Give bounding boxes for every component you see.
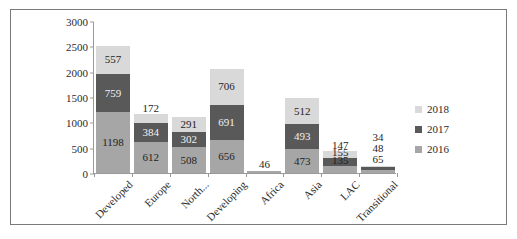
- bar-segment-2016[interactable]: 508: [172, 147, 206, 173]
- chart-figure-frame: 050010001500200025003000 557759119817238…: [10, 9, 507, 225]
- bar-stack[interactable]: 147155135: [323, 151, 357, 173]
- bar-value-label: 493: [294, 131, 311, 142]
- x-tick-mark: [283, 173, 284, 177]
- x-tick-label: Asia: [302, 179, 324, 201]
- y-tick-mark: [90, 47, 94, 48]
- bar-stack[interactable]: 512493473: [285, 98, 319, 173]
- bar-value-label: 291: [180, 119, 197, 130]
- legend-item-2016[interactable]: 2016: [415, 144, 449, 155]
- legend-label: 2017: [427, 124, 449, 135]
- x-tick-mark: [132, 173, 133, 177]
- x-tick-label: Europe: [142, 179, 172, 209]
- bar-stack[interactable]: 344865: [361, 166, 395, 173]
- bar-segment-2017[interactable]: 384: [134, 123, 168, 142]
- bar-segment-2018[interactable]: 706: [210, 69, 244, 105]
- x-tick-label: Developing: [204, 179, 248, 223]
- bar-segment-2017[interactable]: 302: [172, 132, 206, 147]
- legend-swatch-icon: [415, 106, 422, 113]
- bar-stack[interactable]: 172384612: [134, 114, 168, 173]
- bar-value-label: 612: [143, 152, 160, 163]
- y-tick-mark: [90, 72, 94, 73]
- bar-value-label: 135: [332, 155, 349, 166]
- plot-area: 050010001500200025003000 557759119817238…: [93, 22, 396, 174]
- bar-value-label: 508: [180, 155, 197, 166]
- legend-label: 2016: [427, 144, 449, 155]
- y-tick-label: 2500: [66, 42, 88, 53]
- bar-value-label: 384: [143, 127, 160, 138]
- bar-value-label: 691: [218, 117, 235, 128]
- bar-segment-2016[interactable]: 612: [134, 142, 168, 173]
- bar-segment-2018[interactable]: 557: [96, 46, 130, 74]
- bar-segment-2018[interactable]: 172: [134, 114, 168, 123]
- x-tick-mark: [94, 173, 95, 177]
- x-tick-label: LAC: [339, 179, 362, 202]
- x-tick-mark: [397, 173, 398, 177]
- bar-segment-2017[interactable]: 691: [210, 105, 244, 140]
- legend-swatch-icon: [415, 126, 422, 133]
- x-tick-mark: [359, 173, 360, 177]
- y-tick-label: 0: [83, 169, 89, 180]
- bar-value-label: 473: [294, 156, 311, 167]
- bar-segment-2016[interactable]: [247, 171, 281, 173]
- bar-value-label: 706: [218, 81, 235, 92]
- bar-stack[interactable]: 46: [247, 171, 281, 173]
- bar-value-labels: 46: [259, 159, 270, 170]
- x-tick-label: North...: [179, 179, 211, 211]
- x-tick-label: Developed: [93, 179, 134, 220]
- x-tick-mark: [321, 173, 322, 177]
- bar-segment-2018[interactable]: 291: [172, 117, 206, 132]
- bar-segment-2018[interactable]: 512: [285, 98, 319, 124]
- bar-segment-2016[interactable]: [361, 170, 395, 173]
- bar-value-label: 302: [180, 134, 197, 145]
- y-tick-label: 1000: [66, 118, 88, 129]
- bar-segment-2016[interactable]: 656: [210, 140, 244, 173]
- bar-segment-2017[interactable]: 759: [96, 74, 130, 112]
- bar-stack[interactable]: 291302508: [172, 117, 206, 173]
- x-tick-mark: [208, 173, 209, 177]
- y-tick-mark: [90, 148, 94, 149]
- bar-stack[interactable]: 706691656: [210, 69, 244, 173]
- x-tick-mark: [246, 173, 247, 177]
- y-tick-label: 1500: [66, 93, 88, 104]
- bar-stack[interactable]: 5577591198: [96, 46, 130, 173]
- bar-value-label: 65: [373, 154, 384, 165]
- bar-segment-2016[interactable]: 473: [285, 149, 319, 173]
- x-tick-label: Africa: [259, 179, 287, 207]
- bar-segment-2016[interactable]: 135: [323, 166, 357, 173]
- legend-item-2017[interactable]: 2017: [415, 124, 449, 135]
- bar-value-label: 759: [105, 88, 122, 99]
- y-tick-label: 2000: [66, 67, 88, 78]
- y-tick-label: 3000: [66, 17, 88, 28]
- y-tick-mark: [90, 98, 94, 99]
- bar-value-label: 557: [105, 54, 122, 65]
- y-tick-mark: [90, 123, 94, 124]
- bar-value-labels: 344865: [373, 132, 384, 165]
- legend-swatch-icon: [415, 146, 422, 153]
- x-tick-mark: [170, 173, 171, 177]
- bar-value-label: 656: [218, 151, 235, 162]
- bar-value-label: 512: [294, 106, 311, 117]
- bar-value-label: 1198: [102, 137, 124, 148]
- y-tick-label: 500: [72, 143, 89, 154]
- bar-segment-2016[interactable]: 1198: [96, 112, 130, 173]
- bar-value-label: 172: [143, 103, 160, 114]
- y-tick-mark: [90, 22, 94, 23]
- chart-legend: 201820172016: [415, 104, 449, 155]
- bar-value-label: 46: [259, 159, 270, 170]
- bar-segment-2017[interactable]: 493: [285, 124, 319, 149]
- legend-label: 2018: [427, 104, 449, 115]
- legend-item-2018[interactable]: 2018: [415, 104, 449, 115]
